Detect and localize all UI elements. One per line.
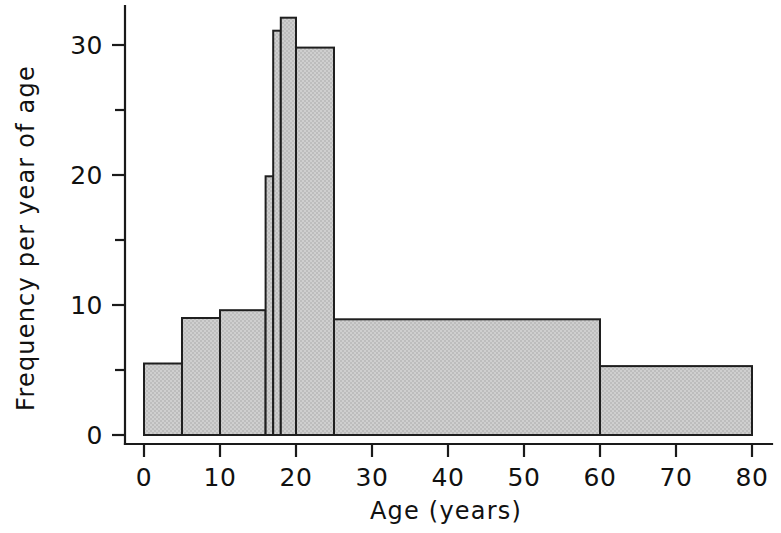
x-tick-label: 40 xyxy=(432,463,465,492)
x-tick-label: 20 xyxy=(280,463,313,492)
y-tick-label: 0 xyxy=(87,421,103,450)
histogram-bar xyxy=(281,18,296,435)
x-tick-label: 0 xyxy=(136,463,152,492)
histogram-bar xyxy=(334,319,600,435)
y-axis-title: Frequency per year of age xyxy=(12,65,40,411)
x-tick-label: 50 xyxy=(508,463,541,492)
x-tick-label: 30 xyxy=(356,463,389,492)
x-tick-label: 80 xyxy=(736,463,769,492)
x-axis-title: Age (years) xyxy=(370,497,522,525)
histogram-bars xyxy=(144,18,752,435)
histogram-bar xyxy=(273,31,281,435)
x-tick-label: 10 xyxy=(204,463,237,492)
histogram-bar xyxy=(182,318,220,435)
histogram-bar xyxy=(266,176,274,435)
y-tick-label: 30 xyxy=(70,31,103,60)
y-axis-ticks xyxy=(112,45,125,435)
histogram-bar xyxy=(600,366,752,435)
x-tick-label: 70 xyxy=(660,463,693,492)
histogram-bar xyxy=(296,48,334,435)
y-tick-label: 20 xyxy=(70,161,103,190)
histogram-bar xyxy=(220,310,266,435)
histogram-bar xyxy=(144,364,182,436)
y-tick-label: 10 xyxy=(70,291,103,320)
histogram-figure: 010203001020304050607080 Age (years) Fre… xyxy=(0,0,781,533)
plot-canvas: 010203001020304050607080 Age (years) Fre… xyxy=(0,0,781,533)
x-axis-ticks xyxy=(144,444,752,457)
x-tick-label: 60 xyxy=(584,463,617,492)
